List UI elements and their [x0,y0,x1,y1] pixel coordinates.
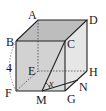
label-C: C [67,37,75,51]
label-N: N [79,80,88,94]
angle-label: x [48,78,54,89]
cube-diagram: A B C D E F G H M N 4 x [0,0,106,111]
label-D: D [89,13,98,27]
label-A: A [28,8,37,22]
side-length-label: 4 [6,61,12,75]
label-B: B [6,35,14,49]
label-E: E [28,64,35,78]
label-H: H [89,65,98,79]
label-G: G [67,92,76,106]
label-F: F [5,86,12,100]
label-M: M [36,93,47,107]
